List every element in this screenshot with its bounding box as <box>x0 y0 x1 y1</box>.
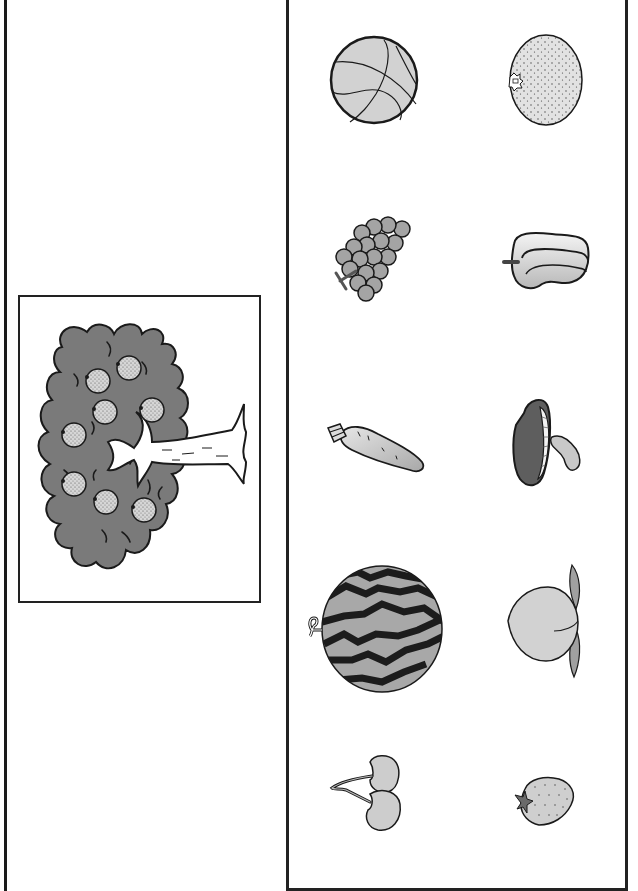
item-basketball[interactable]: Basketball <box>328 34 420 126</box>
watermelon-icon <box>308 564 446 694</box>
item-bell-pepper[interactable]: Bell pepper <box>502 230 592 292</box>
item-strawberry[interactable]: Strawberry <box>515 775 577 827</box>
strawberry-icon <box>515 775 577 827</box>
item-grapes[interactable]: Grapes <box>330 213 420 297</box>
item-peach[interactable]: Peach <box>506 565 586 679</box>
basketball-icon <box>328 34 420 126</box>
peach-icon <box>506 565 586 679</box>
carrot-icon <box>324 418 428 474</box>
item-watermelon[interactable]: Watermelon <box>308 564 446 694</box>
mushroom-icon <box>508 393 586 489</box>
item-carrot[interactable]: Carrot <box>324 418 428 474</box>
orange-icon <box>508 33 584 127</box>
item-mushroom[interactable]: Mushroom <box>508 393 586 489</box>
item-cherries[interactable]: Cherries <box>330 754 420 838</box>
bell-pepper-icon <box>502 230 592 292</box>
cherries-icon <box>330 754 420 838</box>
tree-with-fruits-icon <box>20 297 259 601</box>
tree-picture-frame[interactable]: Tree with round dotted fruits (oranges) … <box>18 295 261 603</box>
item-orange[interactable]: Orange <box>508 33 584 127</box>
grapes-icon <box>330 213 420 297</box>
tree-picture-label: Tree with round dotted fruits (oranges) … <box>259 297 260 298</box>
left-border-line <box>4 0 7 891</box>
